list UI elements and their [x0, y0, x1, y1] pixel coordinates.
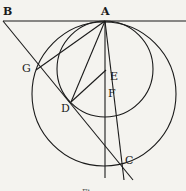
line-DE: [71, 70, 106, 102]
label-G: G: [22, 62, 31, 75]
label-D: D: [61, 102, 70, 115]
figure-caption: Fi: [82, 187, 91, 191]
label-F: F: [108, 87, 116, 100]
line-AC: [105, 21, 124, 180]
label-C: C: [125, 154, 133, 167]
label-A: A: [100, 5, 110, 18]
geometry-diagram: B A G D E F C Fi: [0, 0, 186, 191]
label-B: B: [3, 5, 12, 18]
label-E: E: [110, 70, 118, 83]
